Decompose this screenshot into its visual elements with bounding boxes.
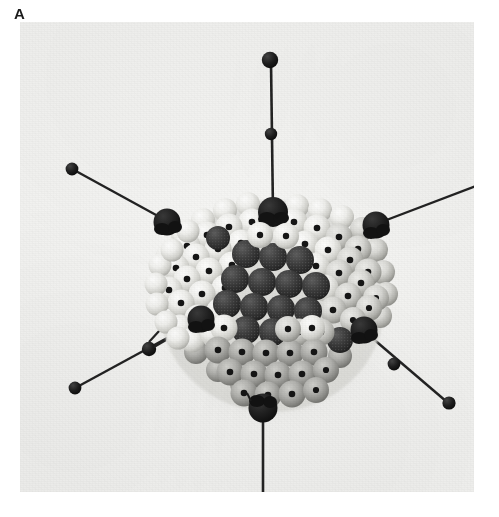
fiber-lower-right-knob xyxy=(442,396,455,409)
capsomer-dark xyxy=(206,226,230,250)
capsomer xyxy=(279,381,306,408)
capsomer xyxy=(299,315,325,341)
capsomer xyxy=(275,316,301,342)
fiber-lower-left-mid-bead xyxy=(142,342,156,356)
photograph-plate xyxy=(20,22,474,492)
virus-capsid-model-image xyxy=(20,22,474,492)
fiber-upper-right xyxy=(376,175,474,224)
fiber-top-knob xyxy=(262,52,278,68)
fiber-top xyxy=(262,52,278,212)
fiber-top-mid-bead xyxy=(265,128,277,140)
capsomer xyxy=(273,223,299,249)
fiber-upper-left-knob xyxy=(66,163,79,176)
fiber-lower-right-mid-bead xyxy=(388,358,401,371)
capsomer-dark xyxy=(286,246,314,274)
panel-label: A xyxy=(14,6,25,21)
capsomer xyxy=(247,222,273,248)
capsomer-dark xyxy=(213,290,241,318)
capsomer-dark xyxy=(302,272,330,300)
capsomer-dark xyxy=(248,268,276,296)
capsomer xyxy=(303,377,329,403)
vertex-upper-right xyxy=(363,212,391,240)
fiber-upper-left xyxy=(66,163,167,221)
figure-root: A xyxy=(0,0,499,517)
fiber-lower-left-knob xyxy=(69,382,82,395)
capsomer-dark xyxy=(221,265,249,293)
capsomer-dark xyxy=(275,270,303,298)
vertex-upper-left xyxy=(154,209,183,236)
